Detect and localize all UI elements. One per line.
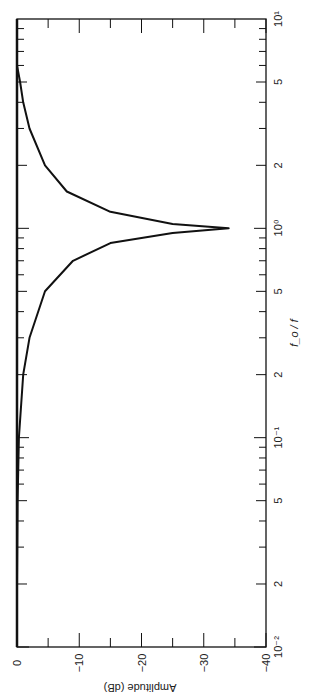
- amplitude-chart: 0−10−20−30−4010⁻²2510⁻¹2510⁰2510¹f_o / f…: [0, 0, 310, 699]
- amp-tick-label: −40: [260, 654, 272, 673]
- x-axis-title: f_o / f: [288, 318, 300, 346]
- freq-tick-label: 2: [272, 162, 284, 168]
- freq-tick-label: 5: [272, 79, 284, 85]
- freq-tick-label: 2: [272, 581, 284, 587]
- amp-tick-label: −30: [198, 654, 210, 673]
- freq-tick-label: 10¹: [272, 11, 284, 27]
- amp-tick-label: 0: [11, 660, 23, 666]
- plot-frame: [17, 19, 266, 647]
- freq-tick-label: 10⁻²: [272, 636, 284, 658]
- freq-tick-label: 5: [272, 288, 284, 294]
- amplitude-curve: [17, 65, 229, 647]
- freq-tick-label: 5: [272, 498, 284, 504]
- amp-tick-label: −10: [73, 654, 85, 673]
- freq-tick-label: 2: [272, 372, 284, 378]
- plot-area: 0−10−20−30−4010⁻²2510⁻¹2510⁰2510¹f_o / f…: [11, 11, 300, 694]
- freq-tick-label: 10⁰: [272, 219, 284, 236]
- y-axis-title: Amplitude (dB): [104, 682, 177, 694]
- freq-tick-label: 10⁻¹: [272, 426, 284, 448]
- amp-tick-label: −20: [136, 654, 148, 673]
